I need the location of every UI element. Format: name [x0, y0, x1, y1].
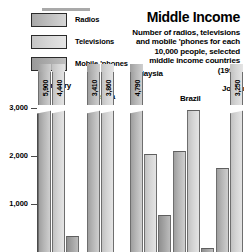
pennant-cap	[38, 64, 51, 72]
pennant-cap	[52, 64, 65, 72]
bar-russia-radios	[87, 108, 100, 252]
country-label: Brazil	[180, 95, 201, 103]
legend-label-radios: Radios	[75, 16, 99, 24]
bar-hungary-mobile-phones	[66, 236, 79, 252]
value-pennant: 4,440	[52, 71, 65, 105]
y-tick-label: 3,000	[9, 104, 28, 112]
bar-malaysia-mobile-phones	[158, 215, 171, 252]
y-tick-mark	[31, 108, 37, 109]
subtitle-line-1: Number of radios, televisions	[108, 28, 240, 37]
bar-value-label: 3,250	[233, 80, 240, 97]
bar-value-label: 4,790	[133, 80, 140, 97]
bar-jordan-radios	[216, 168, 229, 252]
bar-value-label: 4,440	[55, 80, 62, 97]
pennant-cap	[87, 64, 100, 72]
bar-value-label: 3,860	[104, 80, 111, 97]
bar-value-label: 3,410	[90, 80, 97, 97]
subtitle-line-4: middle income countries	[108, 56, 240, 65]
bar-brazil-mobile-phones	[201, 248, 214, 252]
chart-root: Radios Televisions Mobile 'phones Middle…	[0, 0, 244, 252]
subtitle-line-2: and mobile 'phones for each	[108, 37, 240, 46]
televisions-swatch	[31, 35, 67, 49]
value-pennant: 3,250	[230, 71, 243, 105]
pennant-cap	[130, 64, 143, 72]
pennant-cap	[230, 64, 243, 72]
value-pennant: 5,900	[38, 71, 51, 105]
bar-hungary-televisions	[52, 108, 65, 252]
plot-area: 1,0002,0003,000 Hungary5,9004,440Russia3…	[0, 68, 244, 252]
bar-malaysia-radios	[130, 108, 143, 252]
bar-value-label: 5,900	[41, 80, 48, 97]
bar-brazil-radios	[173, 151, 186, 252]
y-tick-label: 2,000	[9, 152, 28, 160]
cropped-artifact	[42, 8, 90, 11]
bar-jordan-televisions	[230, 108, 243, 252]
chart-title: Middle Income	[108, 10, 240, 24]
y-tick-mark	[31, 204, 37, 205]
y-axis-labels: 1,0002,0003,000	[0, 68, 28, 252]
subtitle-line-3: 10,000 people, selected	[108, 47, 240, 56]
radios-swatch	[31, 13, 67, 27]
value-pennant: 3,410	[87, 71, 100, 105]
pennant-cap	[101, 64, 114, 72]
bar-malaysia-televisions	[144, 154, 157, 252]
bar-russia-televisions	[101, 108, 114, 252]
value-pennant: 4,790	[130, 71, 143, 105]
bar-brazil-televisions	[187, 110, 200, 252]
bar-groups: Hungary5,9004,440Russia3,4103,860Malaysi…	[38, 68, 244, 252]
title-block: Middle Income Number of radios, televisi…	[108, 10, 240, 75]
bar-hungary-radios	[38, 108, 51, 252]
value-pennant: 3,860	[101, 71, 114, 105]
y-tick-label: 1,000	[9, 200, 28, 208]
y-tick-mark	[31, 156, 37, 157]
